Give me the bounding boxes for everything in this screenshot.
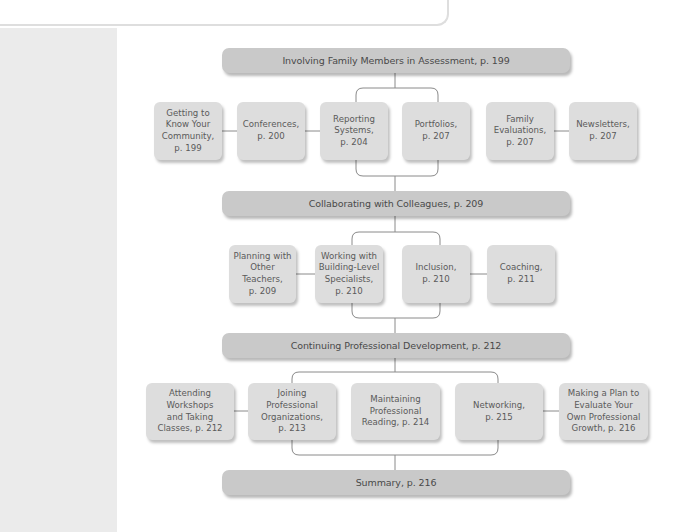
node-evaluate-growth-plan: Making a Plan to Evaluate Your Own Profe… <box>559 383 648 440</box>
node-family-evaluations: Family Evaluations, p. 207 <box>486 102 554 160</box>
section-header-family-members: Involving Family Members in Assessment, … <box>222 48 570 73</box>
node-reporting-systems: Reporting Systems, p. 204 <box>320 102 388 160</box>
node-networking: Networking, p. 215 <box>455 383 543 440</box>
section-header-summary: Summary, p. 216 <box>222 470 570 495</box>
section-header-collaborating: Collaborating with Colleagues, p. 209 <box>222 191 570 216</box>
node-working-with-specialists: Working with Building-Level Specialists,… <box>315 245 383 303</box>
node-getting-to-know-community: Getting to Know Your Community, p. 199 <box>154 102 222 160</box>
node-newsletters: Newsletters, p. 207 <box>569 102 637 160</box>
top-card <box>0 0 449 26</box>
node-maintaining-reading: Maintaining Professional Reading, p. 214 <box>351 383 440 440</box>
node-planning-with-teachers: Planning with Other Teachers, p. 209 <box>229 245 296 303</box>
node-conferences: Conferences, p. 200 <box>237 102 305 160</box>
node-coaching: Coaching, p. 211 <box>487 245 555 303</box>
node-portfolios: Portfolios, p. 207 <box>402 102 470 160</box>
node-inclusion: Inclusion, p. 210 <box>402 245 470 303</box>
node-attending-workshops: Attending Workshops and Taking Classes, … <box>146 383 234 440</box>
node-joining-organizations: Joining Professional Organizations, p. 2… <box>248 383 336 440</box>
side-strip <box>0 28 117 532</box>
section-header-professional-development: Continuing Professional Development, p. … <box>222 333 570 358</box>
